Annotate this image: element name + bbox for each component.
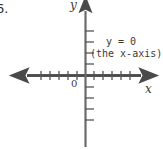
math-figure: 6. y x 0 y = 0 (the x-axis): [0, 0, 163, 149]
origin-label: 0: [71, 78, 77, 89]
problem-number: 6.: [0, 1, 8, 16]
y-axis-label: y: [70, 0, 77, 12]
equation-annotation: y = 0: [106, 36, 136, 47]
x-axis-label: x: [145, 82, 152, 96]
equation-description-annotation: (the x-axis): [90, 48, 162, 59]
coordinate-plane-graph: [0, 0, 163, 149]
